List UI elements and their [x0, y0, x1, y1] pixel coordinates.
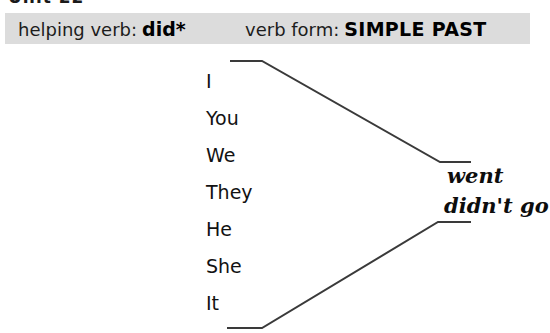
chapter-heading-fragment: Unit 22	[8, 0, 84, 7]
list-item: They	[206, 177, 316, 214]
list-item: You	[206, 103, 316, 140]
list-item: We	[206, 140, 316, 177]
verb-form-affirmative: went	[447, 163, 503, 188]
verb-form-negative: didn't go	[444, 193, 549, 218]
helping-verb-label: helping verb:	[18, 19, 137, 40]
list-item: It	[206, 288, 316, 325]
verb-form-group: verb form: SIMPLE PAST	[245, 18, 486, 40]
helping-verb-group: helping verb: did*	[18, 18, 186, 40]
list-item: She	[206, 251, 316, 288]
list-item: I	[206, 66, 316, 103]
verb-form-value: SIMPLE PAST	[344, 18, 486, 40]
verb-info-banner: helping verb: did* verb form: SIMPLE PAS…	[5, 13, 530, 44]
subject-pronoun-list: I You We They He She It	[206, 66, 316, 325]
verb-form-label: verb form:	[245, 19, 339, 40]
helping-verb-value: did*	[142, 18, 186, 40]
list-item: He	[206, 214, 316, 251]
